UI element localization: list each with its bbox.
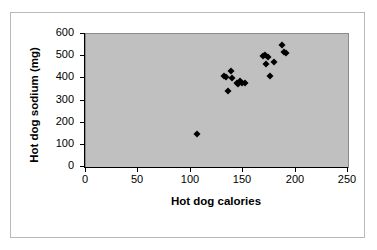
y-axis-tick xyxy=(80,33,84,34)
y-axis-tick-label: 400 xyxy=(34,71,74,82)
y-axis-line xyxy=(84,33,85,168)
y-axis-tick-label: 600 xyxy=(34,27,74,38)
y-axis-tick xyxy=(80,122,84,123)
x-axis-tick-label: 0 xyxy=(65,174,105,185)
x-axis-tick xyxy=(85,168,86,172)
x-axis-tick-label: 200 xyxy=(275,174,315,185)
x-axis-tick xyxy=(137,168,138,172)
plot-area xyxy=(85,33,349,168)
x-axis-tick-label: 100 xyxy=(170,174,210,185)
x-axis-title: Hot dog calories xyxy=(85,195,347,207)
scatter-chart-figure: 0100200300400500600 050100150200250 Hot … xyxy=(10,12,365,238)
y-axis-tick xyxy=(80,55,84,56)
x-axis-tick xyxy=(242,168,243,172)
x-axis-tick xyxy=(190,168,191,172)
y-axis-tick xyxy=(80,144,84,145)
y-axis-tick xyxy=(80,166,84,167)
y-axis-tick xyxy=(80,77,84,78)
x-axis-tick-label: 250 xyxy=(327,174,367,185)
y-axis-tick-label: 200 xyxy=(34,116,74,127)
y-axis-title: Hot dog sodium (mg) xyxy=(28,30,40,180)
y-axis-tick xyxy=(80,100,84,101)
x-axis-line xyxy=(84,167,348,168)
x-axis-tick-label: 150 xyxy=(222,174,262,185)
x-axis-tick xyxy=(347,168,348,172)
x-axis-tick xyxy=(295,168,296,172)
x-axis-tick-label: 50 xyxy=(117,174,157,185)
y-axis-tick-label: 0 xyxy=(34,160,74,171)
y-axis-tick-label: 300 xyxy=(34,94,74,105)
y-axis-tick-label: 100 xyxy=(34,138,74,149)
y-axis-tick-label: 500 xyxy=(34,49,74,60)
